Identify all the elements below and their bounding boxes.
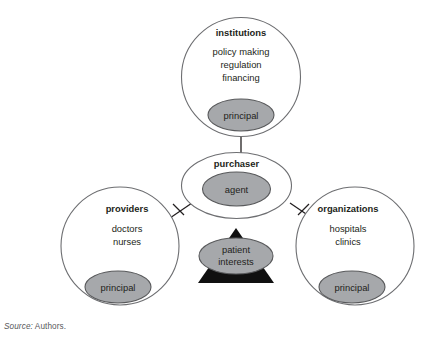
institutions-title: institutions [216, 27, 267, 38]
patient-interests-line-1: patient [222, 244, 251, 255]
node-patient-interests[interactable]: patient interests [198, 228, 274, 283]
providers-principal-label: principal [101, 282, 136, 293]
node-purchaser[interactable]: purchaser agent [182, 153, 292, 219]
purchaser-title: purchaser [214, 158, 260, 169]
node-providers[interactable]: providers doctors nurses principal [61, 187, 179, 305]
institutions-line-3: financing [222, 72, 260, 83]
providers-line-2: nurses [113, 236, 141, 247]
figure-container: institutions policy making regulation fi… [0, 0, 432, 345]
node-institutions[interactable]: institutions policy making regulation fi… [182, 18, 301, 137]
principal-agent-diagram: institutions policy making regulation fi… [0, 0, 432, 345]
institutions-line-2: regulation [220, 59, 261, 70]
providers-line-1: doctors [112, 223, 143, 234]
organizations-line-1: hospitals [329, 223, 366, 234]
providers-title: providers [106, 203, 149, 214]
institutions-principal-label: principal [224, 110, 259, 121]
source-note: Source: Authors. [4, 322, 66, 331]
organizations-principal-label: principal [335, 282, 370, 293]
patient-interests-line-2: interests [218, 256, 254, 267]
source-label: Source: [4, 322, 33, 331]
organizations-title: organizations [318, 203, 379, 214]
institutions-line-1: policy making [213, 46, 270, 57]
source-value: Authors. [35, 322, 66, 331]
node-organizations[interactable]: organizations hospitals clinics principa… [296, 187, 414, 305]
connector-purchaser-providers [170, 203, 192, 218]
organizations-line-2: clinics [335, 236, 361, 247]
purchaser-agent-label: agent [225, 184, 249, 195]
